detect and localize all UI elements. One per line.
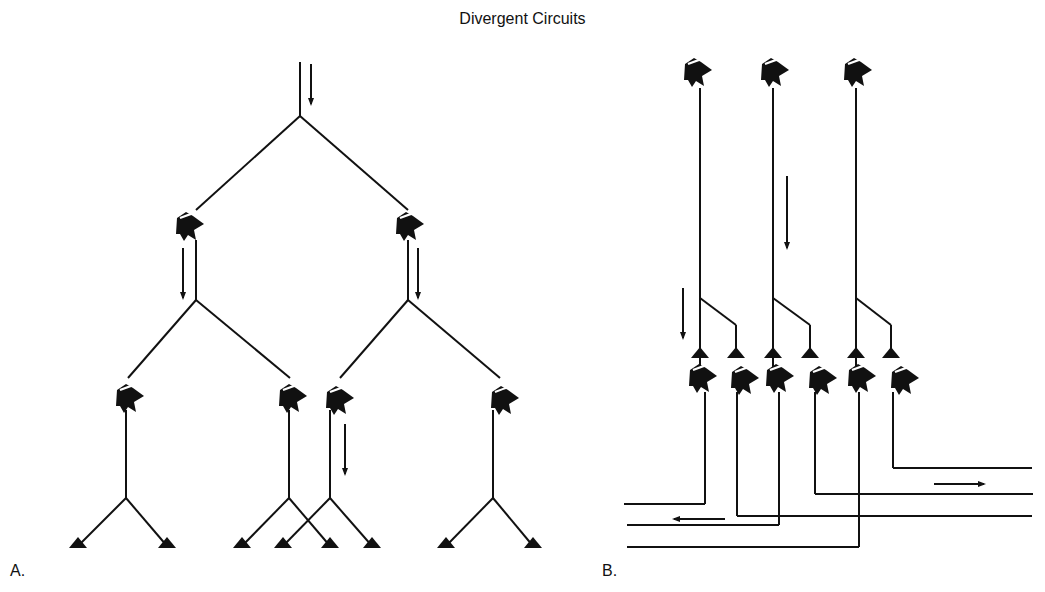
panel-b-parallel-divergence	[624, 58, 1033, 547]
axon-line	[196, 116, 300, 210]
neuron-soma-icon	[809, 366, 837, 395]
axon-line	[856, 298, 891, 325]
axon-line	[493, 498, 533, 546]
synaptic-terminal-icon	[847, 347, 865, 358]
neuron-soma-icon	[176, 212, 204, 241]
synaptic-terminal-icon	[764, 347, 782, 358]
axon-line	[126, 498, 167, 546]
synaptic-terminal-icon	[801, 347, 819, 358]
panel-a-label: A.	[10, 562, 25, 580]
neuron-soma-icon	[891, 366, 919, 395]
panel-b-label: B.	[602, 562, 617, 580]
neuron-soma-icon	[116, 384, 144, 413]
neuron-soma-icon	[684, 58, 712, 87]
axon-line	[700, 298, 736, 325]
axon-line	[196, 300, 290, 378]
axon-line	[773, 298, 810, 325]
neuron-soma-icon	[848, 364, 876, 393]
neuron-soma-icon	[844, 58, 872, 87]
axon-line	[446, 498, 493, 546]
axon-line	[340, 300, 408, 378]
neuron-soma-icon	[766, 364, 794, 393]
synaptic-terminal-icon	[882, 347, 900, 358]
axon-line	[330, 498, 372, 546]
axon-line	[78, 498, 126, 546]
synaptic-terminal-icon	[727, 347, 745, 358]
axon-line	[408, 300, 500, 378]
divergent-circuit-diagram	[0, 0, 1045, 592]
neuron-soma-icon	[279, 384, 307, 413]
panel-a-divergent-tree	[69, 62, 542, 548]
axon-line	[300, 116, 408, 210]
neuron-soma-icon	[689, 364, 717, 393]
synaptic-terminal-icon	[691, 347, 709, 358]
neuron-soma-icon	[396, 212, 424, 241]
axon-line	[128, 300, 196, 378]
neuron-soma-icon	[731, 366, 759, 395]
neuron-soma-icon	[761, 58, 789, 87]
neuron-soma-icon	[491, 386, 519, 415]
